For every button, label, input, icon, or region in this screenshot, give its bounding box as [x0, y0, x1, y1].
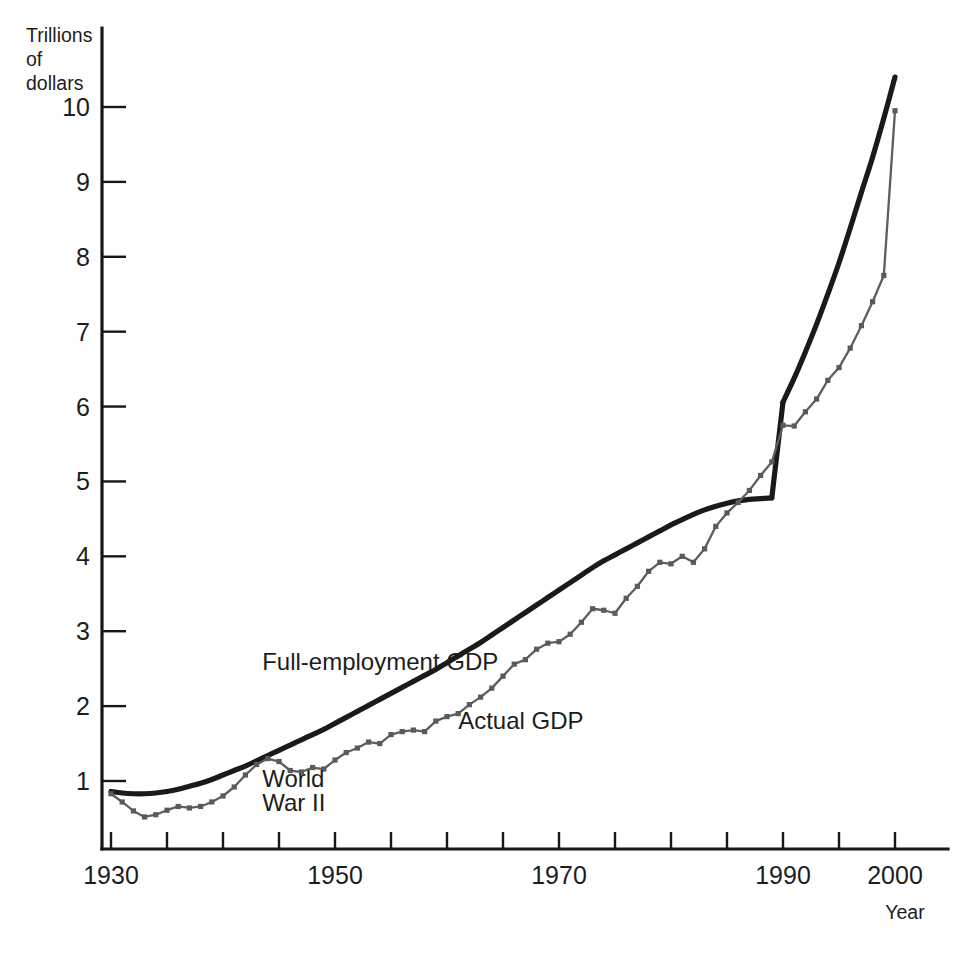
data-point-1967 — [523, 657, 528, 662]
y-tick-label-7: 7 — [76, 318, 90, 346]
data-point-1942 — [243, 772, 248, 777]
data-point-1938 — [198, 804, 203, 809]
data-point-1999 — [881, 273, 886, 278]
x-tick-label-1990: 1990 — [755, 861, 811, 889]
data-point-1932 — [131, 808, 136, 813]
data-point-1931 — [120, 799, 125, 804]
data-point-1996 — [848, 346, 853, 351]
y-tick-label-4: 4 — [76, 542, 90, 570]
y-tick-label-10: 10 — [62, 93, 90, 121]
data-point-1987 — [747, 488, 752, 493]
data-point-1986 — [736, 500, 741, 505]
data-point-1966 — [512, 662, 517, 667]
data-point-1971 — [568, 632, 573, 637]
y-tick-label-3: 3 — [76, 617, 90, 645]
x-tick-label-1950: 1950 — [307, 861, 363, 889]
data-point-1965 — [500, 674, 505, 679]
data-point-1940 — [220, 793, 225, 798]
data-point-1958 — [422, 729, 427, 734]
data-point-1957 — [411, 727, 416, 732]
data-point-1982 — [691, 560, 696, 565]
x-tick-label-2000: 2000 — [867, 861, 923, 889]
annotation-war-ii: War II — [262, 789, 325, 816]
y-tick-label-9: 9 — [76, 168, 90, 196]
data-point-1970 — [556, 639, 561, 644]
data-point-1944 — [265, 756, 270, 761]
data-point-1936 — [176, 804, 181, 809]
data-point-1943 — [254, 762, 259, 767]
data-point-1934 — [153, 812, 158, 817]
data-point-1983 — [702, 546, 707, 551]
y-tick-label-5: 5 — [76, 467, 90, 495]
data-point-1941 — [232, 784, 237, 789]
data-point-1952 — [355, 745, 360, 750]
y-tick-label-2: 2 — [76, 692, 90, 720]
data-point-1977 — [635, 584, 640, 589]
series-line-full-employment-gdp-seg0 — [111, 498, 772, 794]
data-point-1979 — [657, 560, 662, 565]
gdp-chart-figure: 1234567891019301950197019902000 Full-emp… — [0, 0, 959, 955]
data-point-1930 — [108, 791, 113, 796]
data-point-1991 — [792, 423, 797, 428]
x-tick-label-1930: 1930 — [83, 861, 139, 889]
tick-labels-group: 1234567891019301950197019902000 — [62, 93, 923, 889]
data-point-1960 — [444, 714, 449, 719]
data-point-1975 — [612, 611, 617, 616]
y-axis-title-line-1: Trillions — [26, 24, 93, 46]
data-point-1976 — [624, 596, 629, 601]
data-point-1985 — [724, 510, 729, 515]
data-point-1994 — [825, 378, 830, 383]
data-point-1978 — [646, 569, 651, 574]
data-point-1963 — [478, 695, 483, 700]
data-point-1968 — [534, 647, 539, 652]
data-point-1956 — [400, 729, 405, 734]
annotation-world: World — [262, 765, 324, 792]
data-point-1933 — [142, 814, 147, 819]
data-point-1974 — [601, 608, 606, 613]
y-axis-title-line-2: of — [26, 48, 43, 70]
y-axis-title-line-3: dollars — [26, 72, 84, 94]
data-point-1951 — [344, 750, 349, 755]
data-point-1992 — [803, 409, 808, 414]
y-tick-label-1: 1 — [76, 767, 90, 795]
data-point-1973 — [590, 606, 595, 611]
data-point-1959 — [433, 718, 438, 723]
data-point-1954 — [377, 741, 382, 746]
data-point-1935 — [164, 808, 169, 813]
series-line-full-employment-gdp-seg1 — [783, 77, 895, 402]
data-point-1945 — [276, 759, 281, 764]
data-point-1989 — [769, 459, 774, 464]
data-point-1964 — [489, 686, 494, 691]
data-point-1980 — [668, 561, 673, 566]
data-point-2000 — [892, 108, 897, 113]
y-tick-label-6: 6 — [76, 393, 90, 421]
data-point-1969 — [545, 641, 550, 646]
data-point-1955 — [388, 732, 393, 737]
data-point-1993 — [814, 396, 819, 401]
annotation-full-employment-gdp: Full-employment GDP — [262, 648, 498, 675]
data-point-1990 — [780, 423, 785, 428]
chart-canvas: 1234567891019301950197019902000 Full-emp… — [0, 0, 959, 955]
axis-titles-group: TrillionsofdollarsYear — [26, 24, 925, 923]
series-line-actual-gdp-seg0 — [111, 462, 772, 817]
data-point-1981 — [680, 554, 685, 559]
data-point-1937 — [187, 805, 192, 810]
data-point-1988 — [758, 473, 763, 478]
annotation-actual-gdp: Actual GDP — [458, 707, 583, 734]
y-tick-label-8: 8 — [76, 243, 90, 271]
data-point-1984 — [713, 524, 718, 529]
data-point-1997 — [859, 323, 864, 328]
x-axis-title: Year — [885, 901, 925, 923]
x-tick-label-1970: 1970 — [531, 861, 587, 889]
data-point-1939 — [209, 799, 214, 804]
data-point-1953 — [366, 739, 371, 744]
data-point-1972 — [579, 620, 584, 625]
data-point-1998 — [870, 299, 875, 304]
data-point-1995 — [836, 365, 841, 370]
series-line-full-employment-gdp-rebasing-jump — [772, 402, 783, 498]
data-point-1950 — [332, 757, 337, 762]
